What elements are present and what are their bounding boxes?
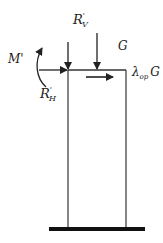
moment-label: M': [7, 52, 24, 66]
moment-arrow: [37, 48, 46, 87]
column-diagram: R'V G M' R'H λopG: [0, 0, 163, 243]
rv-label: R'V: [72, 11, 89, 29]
fixed-base: [49, 227, 145, 231]
lateral-load-label: λopG: [131, 65, 160, 81]
column-frame: [68, 70, 126, 229]
rh-label: R'H: [39, 85, 57, 103]
g-label: G: [118, 39, 128, 53]
